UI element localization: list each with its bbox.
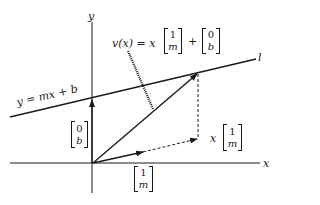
equation-plus: + (188, 36, 197, 47)
direction-vector-top: 1 (135, 168, 152, 178)
direction-vector-matrix: 1 m (134, 166, 153, 192)
offset-vector-matrix: 0 b (71, 121, 88, 148)
equation-direction-top: 1 (165, 30, 181, 40)
x-axis-label: x (263, 158, 269, 169)
offset-vector-bottom: b (72, 136, 87, 146)
equation-offset-top: 0 (203, 30, 219, 40)
y-axis-label: y (88, 11, 94, 22)
resultant-vector-arrow (93, 74, 197, 163)
label-pointer-hatch (128, 51, 153, 109)
equation-direction-bottom: m (165, 42, 181, 52)
scaled-direction-top: 1 (224, 127, 241, 137)
scaled-direction-matrix: 1 m (223, 124, 242, 151)
vector-equation-text: v(x) = x (112, 37, 155, 50)
equation-offset-matrix: 0 b (202, 28, 220, 54)
scaled-direction-bottom: m (224, 139, 241, 149)
scaled-direction-dashed-arrow (143, 139, 197, 152)
equation-offset-bottom: b (203, 42, 219, 52)
direction-vector-bottom: m (135, 180, 152, 190)
line-name-label: l (258, 52, 262, 63)
offset-vector-top: 0 (72, 124, 87, 134)
equation-direction-matrix: 1 m (164, 28, 182, 54)
vector-equation-lhs: v(x) = x (112, 38, 155, 49)
scaled-direction-scalar: x (210, 133, 216, 144)
